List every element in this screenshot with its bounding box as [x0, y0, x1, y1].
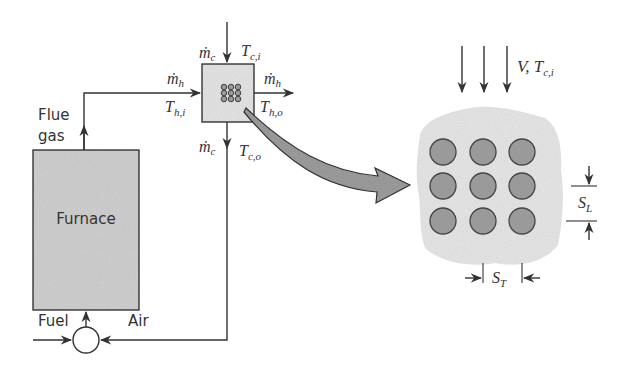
mh-out-label: ṁh	[264, 70, 282, 89]
tci-label: Tc,i	[241, 42, 261, 62]
thi-label: Th,i	[165, 98, 185, 118]
freestream-arrows	[462, 46, 507, 92]
flue-label: Flue	[38, 106, 70, 124]
tho-label: Th,o	[260, 98, 283, 118]
mixer-node	[73, 327, 99, 353]
zoom-in-curved-arrow	[244, 108, 410, 203]
tube-array	[430, 139, 535, 234]
flue-gas-line	[84, 93, 200, 150]
tube-bank-detail	[417, 107, 563, 265]
furnace-label: Furnace	[56, 210, 115, 228]
gas-label: gas	[38, 127, 65, 145]
heat-recovery-diagram: Furnace Flue gas Fuel Air ṁc Tc,i ṁh Th,…	[0, 0, 626, 375]
air-label: Air	[128, 312, 149, 330]
mc-in-label: ṁc	[199, 44, 216, 63]
mc-out-label: ṁc	[199, 138, 216, 157]
mh-in-label: ṁh	[167, 70, 185, 89]
fuel-label: Fuel	[38, 312, 69, 330]
freestream-label: V, Tc,i	[517, 57, 554, 78]
sl-label: SL	[578, 194, 592, 214]
furnace-block: Furnace	[33, 150, 139, 310]
hx-tube-bank-icon	[221, 84, 241, 102]
st-label: ST	[492, 269, 507, 289]
tco-label: Tc,o	[239, 142, 262, 162]
